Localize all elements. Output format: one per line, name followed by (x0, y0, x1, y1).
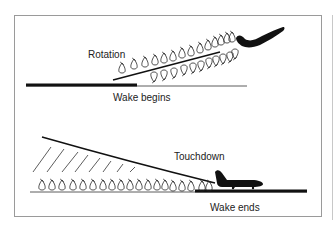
landing-vortices (39, 179, 212, 191)
takeoff-airplane-icon (236, 27, 285, 47)
wake-ends-label: Wake ends (210, 203, 260, 213)
landing-airplane-icon (215, 170, 263, 189)
touchdown-label: Touchdown (174, 152, 225, 162)
landing-panel (30, 137, 307, 192)
takeoff-panel (26, 27, 285, 86)
wake-descent-streaks (33, 147, 135, 172)
wake-vortex-diagram (0, 0, 335, 227)
wake-begins-label: Wake begins (113, 93, 170, 103)
rotation-label: Rotation (88, 50, 125, 60)
